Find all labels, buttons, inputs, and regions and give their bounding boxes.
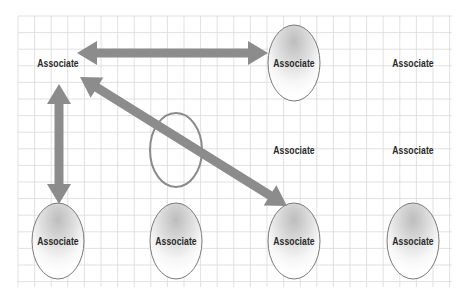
node-label-associate-8[interactable]: Associate	[273, 236, 314, 247]
node-label-associate-1[interactable]: Associate	[37, 58, 78, 69]
node-label-associate-5[interactable]: Associate	[392, 145, 433, 156]
double-arrow-1[interactable]	[77, 41, 268, 65]
node-label-associate-4[interactable]: Associate	[273, 145, 314, 156]
node-ellipses	[32, 25, 439, 279]
node-label-associate-3[interactable]: Associate	[392, 58, 433, 69]
node-label-associate-9[interactable]: Associate	[392, 236, 433, 247]
node-label-associate-6[interactable]: Associate	[37, 236, 78, 247]
node-label-associate-7[interactable]: Associate	[155, 236, 196, 247]
node-label-associate-2[interactable]: Associate	[273, 58, 314, 69]
double-arrow-3[interactable]	[80, 77, 287, 206]
